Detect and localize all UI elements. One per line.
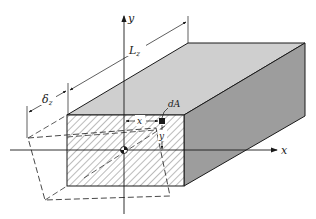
y-axis-label: y — [127, 12, 135, 25]
centroid-icon — [121, 147, 128, 154]
twist-dashed-line-2 — [45, 186, 67, 200]
x-distance-label: x — [137, 116, 142, 126]
y-distance-label: y — [158, 131, 165, 141]
twist-dashed-line-3 — [28, 115, 67, 138]
area-element-icon — [159, 118, 165, 124]
beam-diagram: y x Lz δz dA x y — [0, 0, 316, 219]
x-axis-label: x — [281, 144, 288, 157]
area-element-label: dA — [168, 99, 181, 109]
